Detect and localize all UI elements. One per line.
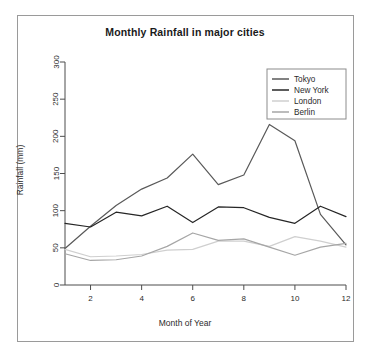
x-tick-label: 8 xyxy=(242,294,247,303)
x-tick-label: 2 xyxy=(88,294,93,303)
x-axis: 24681012 xyxy=(65,285,351,303)
x-tick-label: 10 xyxy=(290,294,299,303)
chart-figure: Monthly Rainfall in major cities Month o… xyxy=(0,0,370,357)
series-line-new-york xyxy=(65,206,346,227)
legend-label-berlin: Berlin xyxy=(294,108,315,117)
legend-label-new-york: New York xyxy=(294,86,329,95)
y-axis: 050100150200250300 xyxy=(52,55,66,287)
plot-area: 050100150200250300 24681012 TokyoNew Yor… xyxy=(17,15,354,342)
x-tick-label: 6 xyxy=(191,294,196,303)
y-tick-label: 100 xyxy=(52,203,61,217)
y-tick-label: 250 xyxy=(52,92,61,106)
legend-label-tokyo: Tokyo xyxy=(294,75,316,84)
y-tick-label: 150 xyxy=(52,166,61,180)
legend-label-london: London xyxy=(294,97,322,106)
series-lines xyxy=(65,124,346,260)
chart-legend: TokyoNew YorkLondonBerlin xyxy=(267,69,346,119)
x-tick-label: 12 xyxy=(342,294,351,303)
y-tick-label: 300 xyxy=(52,55,61,69)
y-tick-label: 0 xyxy=(52,282,61,287)
x-tick-label: 4 xyxy=(139,294,144,303)
series-line-tokyo xyxy=(65,124,346,248)
y-tick-label: 200 xyxy=(52,129,61,143)
series-line-london xyxy=(65,237,346,257)
y-tick-label: 50 xyxy=(52,243,61,252)
